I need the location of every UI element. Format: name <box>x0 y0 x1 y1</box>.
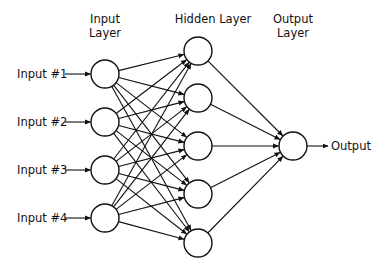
input-node-4 <box>91 204 119 232</box>
input-label-1: Input #1 <box>17 67 67 81</box>
output-layer-title-line1: Output <box>273 12 313 26</box>
hidden-node-5 <box>184 229 212 257</box>
hidden-node-3 <box>184 132 212 160</box>
edge-h1-o1 <box>208 61 283 136</box>
input-label-4: Input #4 <box>17 211 67 225</box>
input-layer-title-line1: Input <box>90 12 120 26</box>
output-node-1 <box>279 132 307 160</box>
edge-i4-h3 <box>116 155 186 210</box>
input-label-2: Input #2 <box>17 115 67 129</box>
edge-i4-h2 <box>114 109 190 206</box>
output-label: Output <box>331 139 371 153</box>
output-layer-title-line2: Layer <box>277 26 309 40</box>
input-node-1 <box>91 60 119 88</box>
edge-i2-h1 <box>116 60 186 114</box>
input-node-3 <box>91 156 119 184</box>
hidden-node-4 <box>184 180 212 208</box>
edge-h5-o1 <box>208 156 283 233</box>
input-label-3: Input #3 <box>17 163 67 177</box>
input-layer-title-line2: Layer <box>89 26 121 40</box>
edge-i4-h1 <box>112 64 191 206</box>
hidden-node-2 <box>184 84 212 112</box>
hidden-node-1 <box>184 37 212 65</box>
hidden-layer-title: Hidden Layer <box>175 12 252 26</box>
neural-network-diagram: Input Layer Hidden Layer Output Layer In… <box>0 0 382 272</box>
input-node-2 <box>91 108 119 136</box>
edge-i1-h1 <box>119 54 184 70</box>
